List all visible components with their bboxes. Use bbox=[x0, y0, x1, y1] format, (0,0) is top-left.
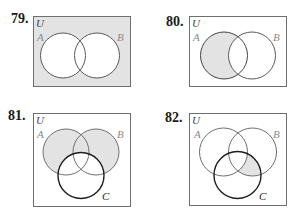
venn-79: U A B bbox=[34, 17, 131, 87]
set-b-label: B bbox=[273, 128, 280, 140]
set-a-label: A bbox=[36, 128, 44, 140]
universe-label: U bbox=[192, 17, 201, 29]
set-c-label: C bbox=[102, 190, 110, 202]
set-a-label: A bbox=[192, 31, 200, 43]
universe-label: U bbox=[36, 114, 45, 126]
venn-82: U A B C bbox=[190, 114, 287, 206]
venn-81: U A B C bbox=[34, 114, 131, 207]
set-a-label: A bbox=[193, 128, 201, 140]
set-b-label: B bbox=[117, 128, 124, 140]
set-c-label: C bbox=[259, 190, 267, 202]
set-a-label: A bbox=[36, 31, 44, 43]
set-b-label: B bbox=[117, 31, 124, 43]
venn-diagrams: U A B U A B U A B C U A bbox=[0, 0, 299, 218]
set-b-label: B bbox=[273, 31, 280, 43]
universe-label: U bbox=[192, 114, 201, 126]
universe-label: U bbox=[36, 17, 45, 29]
venn-80: U A B bbox=[190, 17, 287, 87]
